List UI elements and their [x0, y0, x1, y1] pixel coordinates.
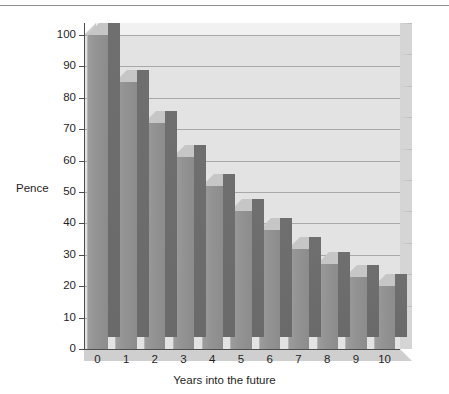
y-tick — [79, 223, 84, 224]
bar-top-face — [386, 274, 395, 286]
y-tick — [79, 318, 84, 319]
x-tick-label: 6 — [257, 353, 283, 365]
x-tick-label: 10 — [372, 353, 398, 365]
y-tick — [79, 192, 84, 193]
bar-top-face — [214, 174, 223, 186]
y-axis-line — [84, 23, 85, 349]
bar-side-face — [252, 199, 264, 337]
bar-side-cap — [367, 265, 379, 277]
x-tick-label: 4 — [199, 353, 225, 365]
y-tick-label: 80 — [38, 92, 76, 104]
bar-side-cap — [194, 145, 206, 157]
bar-top-face — [127, 70, 136, 82]
bar-side-face — [309, 237, 321, 337]
gridline-depth-edge — [400, 54, 412, 67]
x-tick-label: 5 — [228, 353, 254, 365]
bar-side-face — [338, 252, 350, 337]
gridline-depth-edge — [400, 23, 412, 36]
x-axis-title: Years into the future — [0, 374, 449, 386]
gridline — [84, 66, 400, 67]
bar-top-face — [271, 218, 280, 230]
bar-side-cap — [137, 70, 149, 82]
bar-side-cap — [108, 23, 120, 35]
bar-side-cap — [165, 111, 177, 123]
y-tick — [79, 349, 84, 350]
bar-side-cap — [395, 274, 407, 286]
y-tick-label: 70 — [38, 123, 76, 135]
y-tick-label: 40 — [38, 217, 76, 229]
bar-side-cap — [223, 174, 235, 186]
gridline-depth-edge — [400, 243, 412, 256]
bar-side-face — [137, 70, 149, 337]
y-tick-label: 90 — [38, 60, 76, 72]
y-tick — [79, 161, 84, 162]
x-tick-label: 1 — [113, 353, 139, 365]
x-tick-label: 8 — [314, 353, 340, 365]
bar-top-face — [156, 111, 165, 123]
y-tick — [79, 286, 84, 287]
bar-top-face — [357, 265, 366, 277]
x-axis-line — [84, 349, 400, 350]
bar-side-face — [108, 23, 120, 337]
bar-top-bevel — [87, 23, 99, 35]
y-tick-label: 30 — [38, 249, 76, 261]
x-tick-label: 7 — [285, 353, 311, 365]
y-tick-label: 20 — [38, 280, 76, 292]
y-tick-label: 10 — [38, 312, 76, 324]
bar-side-cap — [280, 218, 292, 230]
bar-side-face — [194, 145, 206, 337]
x-tick-label: 2 — [142, 353, 168, 365]
y-axis-title: Pence — [16, 182, 49, 194]
bar-top-face — [185, 145, 194, 157]
gridline-depth-edge — [400, 86, 412, 99]
bar-front-face — [87, 35, 108, 349]
bar-side-cap — [338, 252, 350, 264]
y-tick-label: 0 — [38, 343, 76, 355]
bar-side-face — [223, 174, 235, 337]
gridline-depth-edge — [400, 149, 412, 162]
bar-side-face — [165, 111, 177, 337]
bar-top-face — [329, 252, 338, 264]
y-tick — [79, 129, 84, 130]
bar-edge-highlight — [87, 35, 88, 349]
bar-top-face — [99, 23, 108, 35]
y-tick — [79, 35, 84, 36]
y-tick — [79, 255, 84, 256]
y-tick-label: 100 — [38, 29, 76, 41]
bar-top-face — [242, 199, 251, 211]
x-tick-label: 0 — [84, 353, 110, 365]
plot-ceiling — [84, 23, 412, 35]
bar-chart: 0102030405060708090100 012345678910 £1 P… — [0, 0, 449, 394]
gridline-depth-edge — [400, 180, 412, 193]
y-tick — [79, 66, 84, 67]
bar-side-face — [280, 218, 292, 337]
gridline-depth-edge — [400, 211, 412, 224]
gridline-depth-edge — [400, 117, 412, 130]
bar — [87, 23, 108, 349]
gridline — [84, 35, 400, 36]
bar-side-cap — [309, 237, 321, 249]
bar-top-face — [300, 237, 309, 249]
bar-side-cap — [252, 199, 264, 211]
x-tick-label: 3 — [171, 353, 197, 365]
x-tick-label: 9 — [343, 353, 369, 365]
y-tick — [79, 98, 84, 99]
y-tick-label: 60 — [38, 155, 76, 167]
